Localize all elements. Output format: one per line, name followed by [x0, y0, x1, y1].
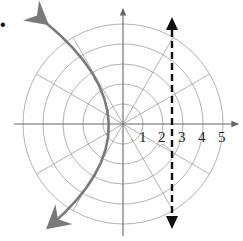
tick-5: 5	[218, 129, 226, 145]
tick-3: 3	[178, 129, 186, 145]
bullet-marker: •	[0, 16, 6, 33]
directrix-arrow-up-icon	[166, 17, 178, 30]
directrix-arrow-down-icon	[166, 216, 178, 229]
tick-2: 2	[158, 129, 166, 145]
tick-4: 4	[198, 129, 206, 145]
polar-graph-svg: 1 2 3 4 5 •	[0, 0, 243, 241]
radial-labels: 1 2 3 4 5	[139, 129, 226, 145]
tick-1: 1	[139, 129, 147, 145]
polar-graph: 1 2 3 4 5 •	[0, 0, 243, 241]
